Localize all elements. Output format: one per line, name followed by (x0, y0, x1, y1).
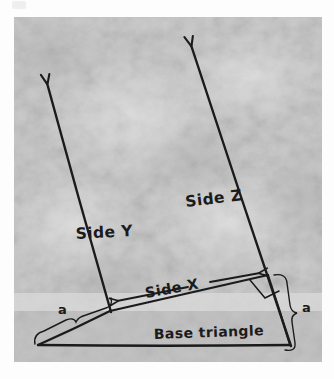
scanned-page: Side Y Side Z Side X Base triangle a a (0, 0, 334, 379)
label-angle-a-right: a (302, 300, 311, 315)
label-side-y: Side Y (75, 222, 133, 243)
scan-artifact-mark (12, 1, 26, 9)
diagram-figure: Side Y Side Z Side X Base triangle a a (14, 17, 322, 362)
geometry-sketch-svg: Side Y Side Z Side X Base triangle a a (14, 17, 322, 362)
label-angle-a-left: a (58, 302, 67, 317)
